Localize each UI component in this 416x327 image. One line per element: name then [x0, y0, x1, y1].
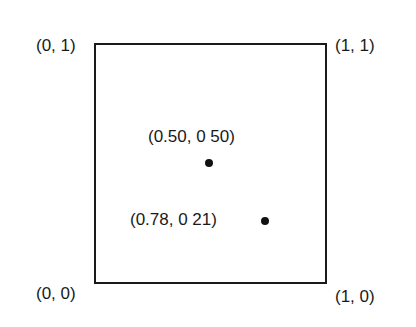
corner-label-top-left: (0, 1) [36, 36, 76, 56]
point-dot-second [261, 217, 269, 225]
point-label-center: (0.50, 0 50) [148, 127, 235, 147]
point-label-second: (0.78, 0 21) [130, 210, 217, 230]
corner-label-bottom-right: (1, 0) [335, 287, 375, 307]
corner-label-top-right: (1, 1) [335, 36, 375, 56]
corner-label-bottom-left: (0, 0) [36, 284, 76, 304]
point-dot-center [205, 159, 213, 167]
